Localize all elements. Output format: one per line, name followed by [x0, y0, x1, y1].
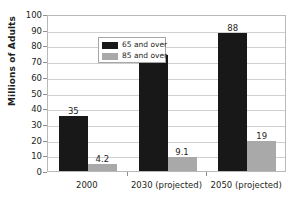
y-tick-mark	[43, 172, 47, 173]
bars-layer: 354.274.19.18819	[48, 16, 285, 171]
y-tick-label: 40	[16, 105, 42, 114]
chart-legend: 65 and over 85 and over	[98, 37, 166, 63]
plot-area: 354.274.19.18819 65 and over 85 and over	[47, 15, 286, 172]
legend-swatch-icon	[102, 53, 118, 60]
legend-label: 65 and over	[122, 41, 167, 49]
bar-value-label: 19	[245, 132, 279, 141]
bar-chart: Millions of Adults 010203040506070809010…	[0, 0, 298, 199]
bar-value-label: 4.2	[85, 155, 119, 164]
y-tick-label: 100	[16, 11, 42, 20]
bar	[247, 141, 276, 171]
y-tick-label: 50	[16, 89, 42, 98]
legend-label: 85 and over	[122, 52, 167, 60]
y-tick-label: 0	[16, 168, 42, 177]
y-tick-label: 30	[16, 121, 42, 130]
bar-value-label: 9.1	[165, 148, 199, 157]
bar	[218, 33, 247, 171]
y-tick-label: 60	[16, 74, 42, 83]
x-tick-label: 2000	[47, 180, 127, 190]
x-tick-mark	[127, 172, 128, 176]
legend-swatch-icon	[102, 42, 118, 49]
x-tick-mark	[206, 172, 207, 176]
y-tick-label: 20	[16, 136, 42, 145]
bar-group: 8819	[218, 16, 276, 171]
bar	[139, 55, 168, 171]
legend-item-85-and-over: 85 and over	[102, 51, 162, 61]
y-tick-label: 90	[16, 26, 42, 35]
x-tick-label: 2050 (projected)	[206, 180, 286, 190]
bar-value-label: 35	[56, 107, 90, 116]
legend-item-65-and-over: 65 and over	[102, 40, 162, 50]
y-tick-label: 70	[16, 58, 42, 67]
bar	[168, 157, 197, 171]
bar	[88, 164, 117, 171]
x-tick-label: 2030 (projected)	[127, 180, 207, 190]
y-tick-label: 10	[16, 152, 42, 161]
y-tick-label: 80	[16, 42, 42, 51]
bar-value-label: 88	[216, 24, 250, 33]
bar	[59, 116, 88, 171]
